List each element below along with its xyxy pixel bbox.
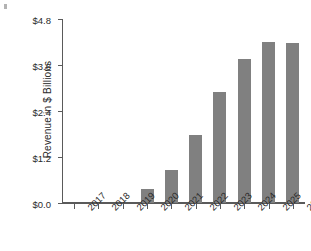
y-axis-tick: $1.2 [58, 157, 63, 158]
bar [238, 59, 251, 203]
bar-chart-figure: Revenue in $ Billions $0.0$1.2$2.4$3.6$4… [0, 0, 311, 251]
x-axis-tick [74, 204, 75, 209]
scan-artifact [4, 4, 7, 9]
y-axis-line [62, 20, 63, 204]
y-axis-tick: $0.0 [58, 203, 63, 204]
plot-area: $0.0$1.2$2.4$3.6$4.8 [62, 20, 305, 204]
x-axis-tick-label: 2026 [304, 190, 311, 213]
y-axis-tick: $3.6 [58, 65, 63, 66]
bar [213, 92, 226, 203]
y-axis-tick-label: $1.2 [33, 152, 52, 163]
y-axis-tick: $4.8 [58, 19, 63, 20]
y-axis-tick-label: $4.8 [33, 14, 52, 25]
y-axis-tick-label: $3.6 [33, 60, 52, 71]
y-axis-tick: $2.4 [58, 111, 63, 112]
y-axis-tick-label: $2.4 [33, 106, 52, 117]
y-axis-tick-label: $0.0 [33, 198, 52, 209]
bar [286, 43, 299, 203]
bar [262, 42, 275, 203]
